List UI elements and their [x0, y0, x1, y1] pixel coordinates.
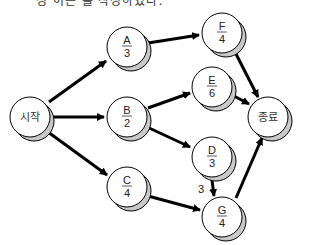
node-duration-F: 4 [219, 33, 225, 45]
node-name-D: D [208, 144, 216, 156]
edge-label-D-G: 3 [198, 183, 204, 195]
edge-start-C [48, 132, 107, 175]
node-name-C: C [123, 174, 131, 186]
edges [48, 35, 262, 210]
node-G: G 4 [202, 197, 246, 241]
edge-D-G [212, 180, 214, 196]
node-duration-G: 4 [219, 217, 225, 229]
node-name-G: G [218, 204, 227, 216]
node-name-F: F [219, 20, 226, 32]
node-B: B 2 [107, 97, 151, 141]
node-duration-D: 3 [209, 157, 215, 169]
edge-A-F [148, 35, 199, 43]
node-duration-C: 4 [124, 187, 130, 199]
node-D: D 3 [192, 137, 236, 181]
edge-B-E [148, 93, 190, 108]
node-E: E 6 [192, 67, 236, 111]
node-duration-E: 6 [209, 87, 215, 99]
node-label-end: 종료 [258, 111, 278, 124]
edge-F-end [235, 52, 258, 97]
node-name-B: B [123, 104, 130, 116]
node-start: 시작 [10, 97, 54, 141]
node-name-E: E [208, 74, 215, 86]
node-label-start: 시작 [20, 111, 40, 124]
node-F: F 4 [202, 13, 246, 57]
node-end: 종료 [248, 97, 292, 141]
edge-C-G [148, 196, 200, 210]
network-diagram: 3 시작 A 3 B 2 C 4 F 4 E 6 [0, 0, 311, 245]
edge-B-D [147, 127, 190, 147]
node-name-A: A [123, 34, 131, 46]
edge-E-end [234, 96, 249, 104]
edge-G-end [236, 138, 262, 198]
node-duration-A: 3 [124, 47, 130, 59]
node-C: C 4 [107, 167, 151, 211]
node-duration-B: 2 [124, 117, 130, 129]
edge-start-A [49, 61, 106, 102]
node-A: A 3 [107, 27, 151, 71]
